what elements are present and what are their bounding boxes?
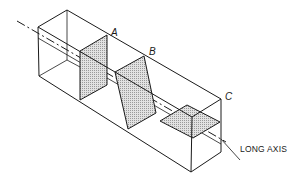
- label-plane-b: B: [149, 46, 156, 57]
- prism-diagram: A B C LONG AXIS: [0, 0, 301, 175]
- top-front-edge: [38, 27, 192, 117]
- front-left-vertical-edge: [38, 27, 39, 76]
- label-plane-a: A: [110, 27, 118, 38]
- diagram-canvas: A B C LONG AXIS: [0, 0, 301, 175]
- back-left-bottom-edge: [39, 60, 67, 76]
- label-plane-c: C: [225, 91, 233, 102]
- bottom-right-edge: [191, 152, 221, 172]
- cross-section-plane-a: [80, 35, 107, 100]
- label-long-axis: LONG AXIS: [240, 144, 287, 154]
- prism-back-edges: [39, 10, 80, 76]
- long-axis-leader-line: [221, 139, 240, 160]
- top-right-edge: [192, 99, 221, 117]
